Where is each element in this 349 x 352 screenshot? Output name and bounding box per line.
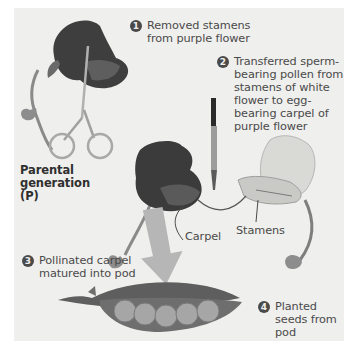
step-1-text: Removed stamens from purple flower bbox=[147, 19, 250, 45]
step-2-line-4: flower to egg- bbox=[234, 94, 343, 107]
step-2: 2 Transferred sperm- bearing pollen from… bbox=[217, 55, 343, 133]
purple-flower-scissors-icon bbox=[21, 21, 128, 158]
step-3: 3 Pollinated carpel matured into pod bbox=[22, 254, 136, 280]
step-4-line-2: seeds from bbox=[275, 313, 337, 326]
step-2-line-1: Transferred sperm- bbox=[234, 55, 343, 68]
step-2-line-6: purple flower bbox=[234, 120, 343, 133]
step-3-line-2: matured into pod bbox=[39, 267, 136, 280]
step-4-text: Planted seeds from pod bbox=[275, 300, 337, 339]
generation-label-line-3: (P) bbox=[20, 190, 90, 203]
parental-generation-label: Parental generation (P) bbox=[20, 164, 90, 203]
step-number-badge: 3 bbox=[22, 255, 34, 267]
white-flower-icon bbox=[238, 136, 315, 269]
step-2-text: Transferred sperm- bearing pollen from s… bbox=[234, 55, 343, 133]
step-2-line-3: stamens of white bbox=[234, 81, 343, 94]
step-number-badge: 2 bbox=[217, 56, 229, 68]
arrow-down-icon bbox=[133, 205, 188, 288]
step-4-line-3: pod bbox=[275, 326, 337, 339]
step-number-badge: 1 bbox=[130, 20, 142, 32]
step-4: 4 Planted seeds from pod bbox=[258, 300, 337, 339]
pollen-transfer-line bbox=[198, 196, 246, 210]
carpel-label: Carpel bbox=[185, 230, 221, 243]
pea-pod-icon bbox=[58, 282, 242, 332]
step-2-line-5: bearing carpel of bbox=[234, 107, 343, 120]
step-3-line-1: Pollinated carpel bbox=[39, 254, 136, 267]
step-1: 1 Removed stamens from purple flower bbox=[130, 19, 250, 45]
step-4-line-1: Planted bbox=[275, 300, 337, 313]
step-2-line-2: bearing pollen from bbox=[234, 68, 343, 81]
step-3-text: Pollinated carpel matured into pod bbox=[39, 254, 136, 280]
step-number-badge: 4 bbox=[258, 301, 270, 313]
step-1-line-1: Removed stamens bbox=[147, 19, 250, 32]
stamens-label: Stamens bbox=[236, 224, 285, 237]
step-1-line-2: from purple flower bbox=[147, 32, 250, 45]
